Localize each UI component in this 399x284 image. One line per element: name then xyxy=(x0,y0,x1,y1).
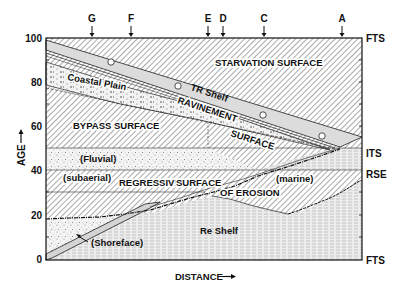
y-tick-100: 100 xyxy=(25,33,42,44)
marker-d: D xyxy=(219,13,226,24)
its-label: ITS xyxy=(366,148,382,159)
marker-e: E xyxy=(205,13,212,24)
top-marker-arrowheads xyxy=(90,33,345,37)
y-tick-0: 0 xyxy=(36,254,42,265)
regressive-surface-label: SURFACE xyxy=(176,177,221,188)
x-axis-arrow-icon xyxy=(222,274,236,279)
of-erosion-label: OF EROSION xyxy=(220,187,280,198)
y-tick-20: 20 xyxy=(31,210,43,221)
marine-label: (marine) xyxy=(276,173,313,184)
re-shelf-label: Re Shelf xyxy=(200,225,239,236)
fluvial-label: (Fluvial) xyxy=(80,153,116,164)
marker-c: C xyxy=(260,13,267,24)
y-tick-60: 60 xyxy=(31,121,43,132)
marker-g: G xyxy=(88,13,96,24)
y-tick-80: 80 xyxy=(31,77,43,88)
shoreface-label: (Shoreface) xyxy=(91,237,143,248)
marker-f: F xyxy=(128,13,134,24)
y-tick-40: 40 xyxy=(31,165,43,176)
fts-bottom-label: FTS xyxy=(366,255,385,266)
starvation-surface-label: STARVATION SURFACE xyxy=(215,57,323,68)
marker-a: A xyxy=(338,13,345,24)
y-axis-label: AGE xyxy=(16,144,27,166)
subaerial-label: (subaerial) xyxy=(63,172,111,183)
bypass-surface-label: BYPASS SURFACE xyxy=(73,120,159,131)
regressive-label: REGRESSIVE xyxy=(119,177,181,188)
x-axis-label: DISTANCE xyxy=(175,271,223,282)
fts-top-label: FTS xyxy=(366,33,385,44)
y-axis-arrow-icon xyxy=(19,129,24,143)
rse-label: RSE xyxy=(366,169,387,180)
stratigraphic-diagram: G F E D C A 0 20 40 60 80 100 AGE DISTAN… xyxy=(0,0,399,284)
